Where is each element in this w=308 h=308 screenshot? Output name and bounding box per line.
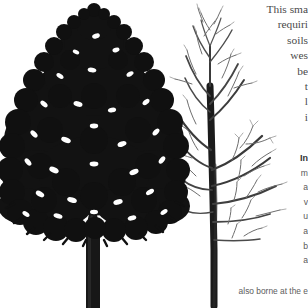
body-line-5: be — [150, 64, 308, 79]
body-line-1: This sma — [150, 2, 308, 17]
subsection-line-6: a — [150, 224, 308, 239]
body-line-2: requiri — [150, 17, 308, 32]
body-line-6: t — [150, 79, 308, 94]
subsection-paragraph: In m a v u a b a — [150, 151, 308, 268]
body-paragraph: This sma requiri soils wes be t l i — [150, 2, 308, 125]
figure-caption: also borne at the e — [150, 286, 308, 297]
subsection-line-4: v — [150, 195, 308, 210]
document-page: This sma requiri soils wes be t l i In m… — [0, 0, 308, 308]
subsection-line-8: a — [150, 253, 308, 268]
subsection-heading: In — [150, 151, 308, 166]
body-line-7: l — [150, 94, 308, 109]
subsection-line-5: u — [150, 209, 308, 224]
body-line-8: i — [150, 110, 308, 125]
subsection-line-2: m — [150, 166, 308, 181]
body-line-4: wes — [150, 48, 308, 63]
subsection-line-3: a — [150, 180, 308, 195]
subsection-line-7: b — [150, 239, 308, 254]
page-text-column: This sma requiri soils wes be t l i In m… — [150, 0, 308, 308]
body-line-3: soils — [150, 33, 308, 48]
